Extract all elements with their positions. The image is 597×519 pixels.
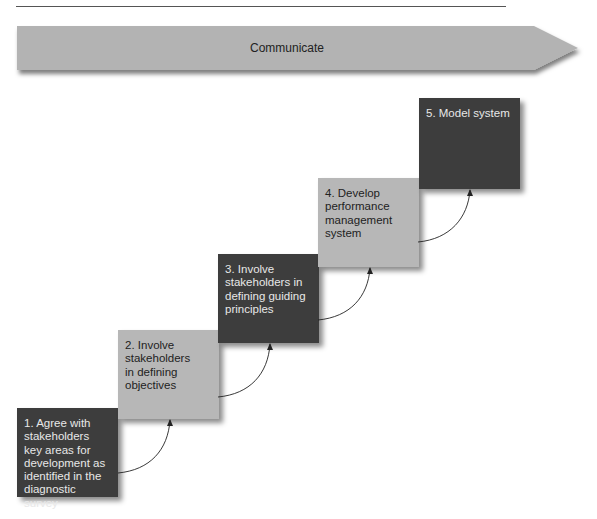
connector-3-to-4-icon bbox=[318, 268, 370, 320]
step-3-box: 3. Involve stakeholders in defining guid… bbox=[218, 254, 319, 343]
step-1-text: 1. Agree with stakeholders key areas for… bbox=[24, 417, 111, 510]
step-4-text: 4. Develop performance management system bbox=[325, 187, 412, 240]
step-3-text: 3. Involve stakeholders in defining guid… bbox=[225, 263, 312, 316]
step-5-box: 5. Model system bbox=[419, 98, 520, 189]
header-rule bbox=[16, 6, 506, 7]
banner-label: Communicate bbox=[17, 26, 557, 71]
connector-4-to-5-icon bbox=[418, 190, 470, 242]
step-4-box: 4. Develop performance management system bbox=[318, 178, 419, 267]
step-1-box: 1. Agree with stakeholders key areas for… bbox=[17, 408, 118, 497]
connector-2-to-3-icon bbox=[218, 344, 270, 397]
connector-1-to-2-icon bbox=[118, 420, 170, 473]
step-5-text: 5. Model system bbox=[426, 107, 513, 120]
step-2-box: 2. Involve stakeholders in defining obje… bbox=[118, 330, 219, 419]
communicate-arrow-banner: Communicate bbox=[17, 26, 579, 71]
step-2-text: 2. Involve stakeholders in defining obje… bbox=[125, 339, 212, 392]
